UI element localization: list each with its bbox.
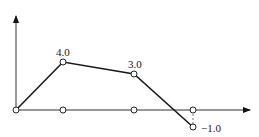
data-point-1 [60, 59, 66, 65]
data-point-origin [13, 107, 19, 113]
baseline-marker [190, 107, 196, 113]
baseline-marker [60, 107, 66, 113]
point-label-3: −1.0 [201, 122, 221, 134]
point-label-2: 3.0 [128, 58, 142, 70]
data-point-3 [190, 124, 196, 130]
line-chart: 4.0 3.0 −1.0 [0, 0, 259, 137]
data-point-2 [131, 71, 137, 77]
baseline-marker [131, 107, 137, 113]
point-label-1: 4.0 [56, 46, 70, 58]
data-line [16, 62, 193, 127]
